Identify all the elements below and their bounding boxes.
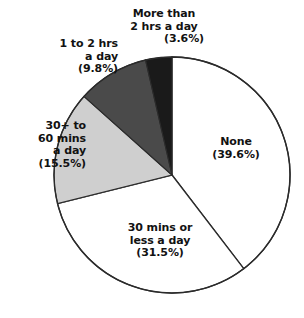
slice-label-line: 1 to 2 hrs bbox=[22, 38, 118, 51]
slice-label-value: (15.5%) bbox=[2, 158, 86, 171]
slice-label-line: None bbox=[196, 136, 276, 149]
slice-label-30-to-60-mins: 30+ to 60 mins a day (15.5%) bbox=[2, 120, 86, 170]
slice-label-line: 30 mins or bbox=[104, 222, 216, 235]
slice-label-value: (31.5%) bbox=[104, 247, 216, 260]
slice-label-value: (3.6%) bbox=[112, 33, 216, 46]
slice-label-line: More than bbox=[112, 8, 216, 21]
slice-label-line: a day bbox=[2, 145, 86, 158]
slice-label-value: (39.6%) bbox=[196, 149, 276, 162]
slice-label-1-to-2-hrs: 1 to 2 hrs a day (9.8%) bbox=[22, 38, 118, 76]
slice-label-value: (9.8%) bbox=[22, 63, 118, 76]
slice-label-more-than-2-hrs: More than 2 hrs a day (3.6%) bbox=[112, 8, 216, 46]
slice-label-none: None (39.6%) bbox=[196, 136, 276, 161]
pie-chart: More than 2 hrs a day (3.6%) 1 to 2 hrs … bbox=[0, 0, 304, 318]
slice-label-30-mins-or-less: 30 mins or less a day (31.5%) bbox=[104, 222, 216, 260]
slice-label-line: 30+ to bbox=[2, 120, 86, 133]
